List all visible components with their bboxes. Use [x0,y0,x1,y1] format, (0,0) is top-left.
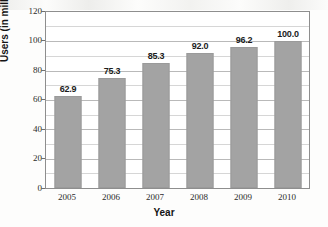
bar-2008[interactable] [187,53,214,188]
y-axis-title-label: Users (in millions) [0,50,10,64]
bar-slot-2010: 100.0 [266,12,310,188]
y-axis-title: Users (in millions) [0,50,13,61]
bar-chart-figure: Users (in millions) 120 100 80 60 40 20 … [0,0,328,227]
bar-value-label-2010: 100.0 [277,29,299,39]
y-tick-label-0: 0 [26,183,42,193]
bar-slot-2005: 62.9 [46,12,90,188]
y-tick-label-120: 120 [26,6,42,16]
bar-slot-2006: 75.3 [90,12,134,188]
x-tick-label-2007: 2007 [133,192,177,202]
x-tick-label-2009: 2009 [221,192,265,202]
bar-series: 62.9 75.3 85.3 92.0 96.2 100.0 [46,12,309,188]
bar-2005[interactable] [55,96,82,188]
bar-2009[interactable] [231,47,258,188]
x-tick-label-2008: 2008 [177,192,221,202]
y-tick-label-60: 60 [26,94,42,104]
bar-value-label-2008: 92.0 [192,41,209,51]
y-tick-label-20: 20 [26,153,42,163]
bar-slot-2007: 85.3 [134,12,178,188]
bar-2010[interactable] [275,41,302,188]
bar-value-label-2005: 62.9 [60,84,77,94]
plot-area: 62.9 75.3 85.3 92.0 96.2 100.0 [45,11,310,189]
bar-value-label-2009: 96.2 [236,35,253,45]
x-tick-label-2010: 2010 [265,192,309,202]
x-tick-label-2005: 2005 [45,192,89,202]
bar-value-label-2006: 75.3 [104,66,121,76]
bar-2006[interactable] [99,78,126,188]
x-axis-title: Year [0,207,328,218]
x-tick-label-2006: 2006 [89,192,133,202]
bar-value-label-2007: 85.3 [148,51,165,61]
scan-artifact-band [0,0,328,10]
bar-slot-2009: 96.2 [222,12,266,188]
bar-slot-2008: 92.0 [178,12,222,188]
y-tick-label-100: 100 [26,35,42,45]
bar-2007[interactable] [143,63,170,188]
y-tick-label-80: 80 [26,65,42,75]
y-tick-label-40: 40 [26,124,42,134]
